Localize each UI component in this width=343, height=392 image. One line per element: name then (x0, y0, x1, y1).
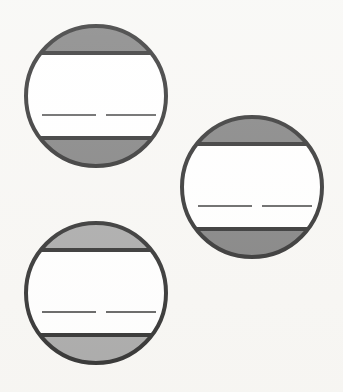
figure-root (0, 0, 343, 392)
disc-middle-right (180, 117, 324, 257)
disc-bottom-left-white-band (26, 250, 166, 335)
disc-middle-right-white-band (182, 144, 322, 229)
disc-top-left (24, 26, 168, 166)
disc-top-left-white-band (26, 53, 166, 138)
banded-circles-figure (0, 0, 343, 392)
disc-bottom-left (24, 223, 168, 363)
